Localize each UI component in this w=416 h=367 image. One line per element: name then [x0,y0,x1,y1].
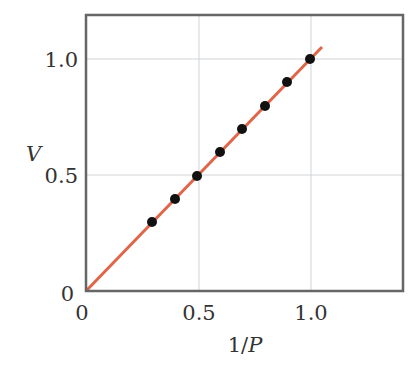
data-point [305,54,315,64]
x-tick-0: 0 [75,301,88,325]
chart: 1.0 0.5 0 0 0.5 1.0 V 1/P [0,0,416,367]
x-axis-var: P [247,333,263,357]
data-point [282,77,292,87]
x-tick-0.5: 0.5 [182,301,215,325]
x-tick-1.0: 1.0 [294,301,327,325]
y-tick-0: 0 [61,282,74,306]
y-tick-1.0: 1.0 [45,48,78,72]
x-axis-label: 1/P [228,333,263,357]
data-point [215,147,225,157]
gridlines [86,15,403,291]
y-axis-var: V [26,142,43,166]
y-tick-0.5: 0.5 [45,164,78,188]
y-axis-label: V [26,142,43,166]
plot-frame [86,15,403,291]
data-point [237,124,247,134]
data-point [192,171,202,181]
data-point [147,217,157,227]
x-axis-prefix: 1/ [228,333,249,357]
data-point [260,101,270,111]
data-point [170,194,180,204]
